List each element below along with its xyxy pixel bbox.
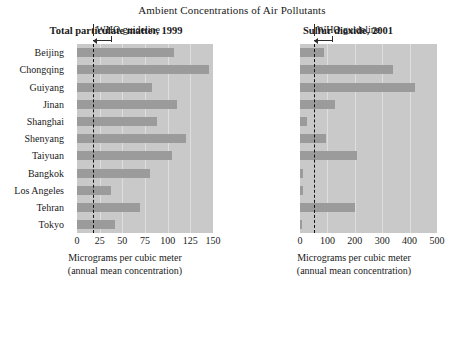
who-guideline-tick-left — [93, 24, 94, 36]
page-title: Ambient Concentrations of Air Pollutants — [0, 4, 464, 16]
bar-guiyang — [77, 83, 152, 92]
x-tick-label: 0 — [75, 235, 80, 247]
x-axis-right: 0100200300400500 — [300, 235, 437, 249]
bar-guiyang — [300, 83, 415, 92]
who-guideline-tick-right — [314, 24, 315, 36]
bar-chongqing — [77, 65, 209, 74]
panel-sulfur-dioxide: Sulfur dioxide, 2001 WHO guideline Beiji… — [232, 24, 464, 324]
bar-jinan — [77, 100, 177, 109]
plot-area-left — [77, 44, 213, 233]
bar-jinan — [300, 100, 335, 109]
bar-shenyang — [300, 134, 326, 143]
bar-tokyo — [77, 220, 115, 229]
category-label-taiyuan: Taiyuan — [32, 150, 64, 161]
x-tick-label: 200 — [347, 235, 362, 247]
x-tick-label: 400 — [402, 235, 417, 247]
bar-taiyuan — [77, 151, 172, 160]
bar-tehran — [300, 203, 355, 212]
x-axis-title-right-line2: (annual mean concentration) — [244, 264, 464, 277]
x-axis-title-left-line1: Micrograms per cubic meter — [18, 251, 232, 264]
x-tick-label: 0 — [298, 235, 303, 247]
who-guideline-line — [314, 44, 315, 233]
category-label-chongqing: Chongqing — [20, 64, 64, 75]
x-tick-label: 100 — [320, 235, 335, 247]
bar-shanghai — [77, 117, 157, 126]
category-label-los-angeles: Los Angeles — [14, 185, 64, 196]
category-label-shenyang: Shenyang — [25, 133, 64, 144]
plot-area-right — [300, 44, 437, 233]
who-guideline-line — [93, 44, 94, 233]
bar-bangkok — [300, 169, 303, 178]
who-guideline-label-right: WHO guideline — [317, 24, 381, 36]
category-label-guiyang: Guiyang — [30, 82, 64, 93]
category-label-tokyo: Tokyo — [39, 219, 64, 230]
x-axis-title-left-line2: (annual mean concentration) — [18, 264, 232, 277]
bar-taiyuan — [300, 151, 357, 160]
category-label-beijing: Beijing — [35, 47, 64, 58]
x-tick-label: 100 — [160, 235, 175, 247]
bar-bangkok — [77, 169, 150, 178]
bar-los-angeles — [300, 186, 303, 195]
x-tick-label: 125 — [183, 235, 198, 247]
x-tick-label: 150 — [206, 235, 221, 247]
chart-page: Ambient Concentrations of Air Pollutants… — [0, 0, 464, 338]
who-guideline-label-left: WHO guideline — [96, 24, 160, 36]
x-tick-label: 50 — [117, 235, 127, 247]
category-label-jinan: Jinan — [43, 99, 64, 110]
x-tick-label: 300 — [375, 235, 390, 247]
category-label-bangkok: Bangkok — [28, 168, 64, 179]
bar-los-angeles — [77, 186, 111, 195]
bar-tokyo — [300, 220, 302, 229]
x-axis-left: 0255075100125150 — [77, 235, 213, 249]
x-tick-label: 75 — [140, 235, 150, 247]
x-tick-label: 25 — [95, 235, 105, 247]
gridline — [410, 44, 411, 233]
x-axis-title-right-line1: Micrograms per cubic meter — [244, 251, 464, 264]
bar-shanghai — [300, 117, 307, 126]
x-tick-label: 500 — [430, 235, 445, 247]
bar-beijing — [300, 48, 324, 57]
bar-beijing — [77, 48, 174, 57]
bar-tehran — [77, 203, 140, 212]
category-label-tehran: Tehran — [36, 202, 64, 213]
category-label-shanghai: Shanghai — [27, 116, 64, 127]
